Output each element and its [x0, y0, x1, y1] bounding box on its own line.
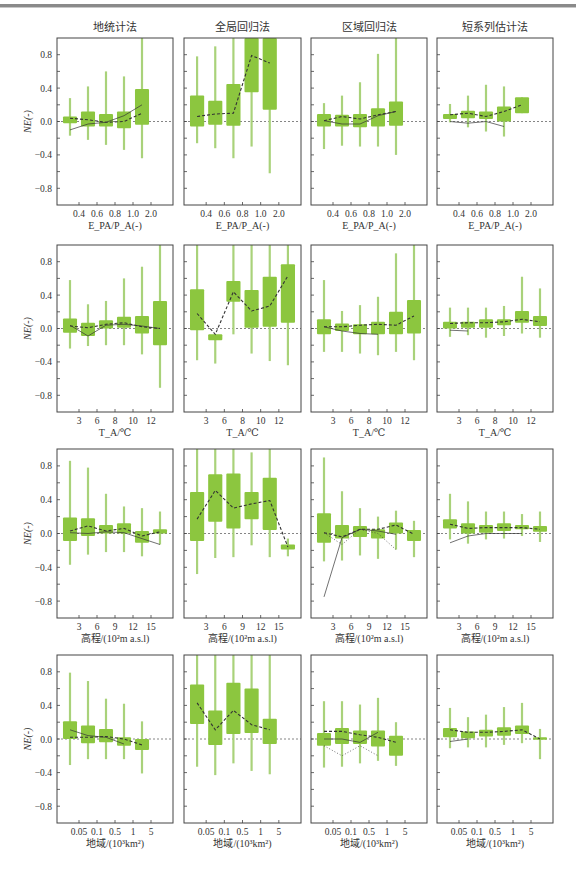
column-title: 地统计法 — [93, 20, 137, 33]
x-tick-label: 8 — [240, 416, 245, 426]
x-tick-label: 12 — [146, 416, 156, 426]
x-tick-label: 12 — [400, 416, 410, 426]
x-tick-label: 2.0 — [273, 209, 285, 219]
x-tick-label: 12 — [256, 622, 266, 632]
x-axis-label: 高程/(10²m a.s.l) — [81, 632, 150, 645]
x-tick-label: 15 — [400, 622, 410, 632]
box — [515, 311, 529, 323]
box — [371, 322, 385, 335]
x-tick-label: 9 — [240, 622, 245, 632]
x-tick-label: 1.0 — [507, 209, 519, 219]
box — [479, 730, 493, 737]
x-tick-label: 3 — [457, 622, 462, 632]
x-tick-label: 0.5 — [109, 827, 121, 837]
box — [461, 731, 475, 738]
panel-row4-col2: 0.050.10.515地域/(10³km²) — [184, 655, 301, 850]
x-axis-label: 地域/(10³km²) — [340, 837, 398, 850]
box — [135, 316, 149, 334]
panel-row3-col3: 3691215高程/(10²m a.s.l) — [311, 449, 427, 645]
box — [281, 264, 295, 322]
box — [281, 544, 295, 549]
x-tick-label: 0.1 — [218, 827, 230, 837]
x-axis-label: E_PA/P_A(-) — [468, 220, 522, 232]
x-tick-label: 0.4 — [327, 209, 339, 219]
x-tick-label: 0.6 — [345, 209, 357, 219]
box — [335, 525, 349, 539]
panel-row4-col1: 0.80.40.0−0.4−0.8NE(-)0.050.10.515地域/(10… — [22, 655, 173, 850]
box — [263, 719, 277, 744]
panel-row3-col2: 3691215高程/(10²m a.s.l) — [184, 449, 301, 645]
x-tick-label: 10 — [508, 416, 518, 426]
panel-row2-col3: 3681012T_A/℃ — [311, 245, 427, 438]
box — [263, 277, 277, 327]
x-axis-label: 地域/(10³km²) — [213, 837, 271, 850]
trend-line — [324, 732, 378, 742]
box — [371, 108, 385, 126]
x-tick-label: 6 — [95, 416, 100, 426]
x-tick-label: 6 — [95, 622, 100, 632]
x-tick-label: 1 — [131, 827, 136, 837]
x-tick-label: 15 — [274, 622, 284, 632]
x-axis-label: E_PA/P_A(-) — [342, 220, 396, 232]
box — [81, 323, 95, 336]
x-tick-label: 6 — [475, 416, 480, 426]
box — [389, 101, 403, 125]
x-axis-label: T_A/℃ — [99, 427, 131, 438]
y-tick-label: −0.4 — [35, 357, 52, 367]
y-tick-label: −0.8 — [35, 391, 52, 401]
box — [63, 721, 77, 739]
x-tick-label: 0.05 — [325, 827, 342, 837]
x-tick-label: 12 — [382, 622, 392, 632]
x-tick-label: 0.8 — [237, 209, 249, 219]
panel-row1-col1: 地统计法0.80.40.0−0.4−0.8NE(-)0.40.60.81.02.… — [22, 20, 173, 232]
y-tick-label: −0.4 — [35, 768, 52, 778]
x-tick-label: 3 — [77, 416, 82, 426]
x-tick-label: 0.8 — [489, 209, 501, 219]
x-tick-label: 1 — [385, 827, 390, 837]
x-axis-label: 地域/(10³km²) — [466, 837, 524, 850]
x-tick-label: 1.0 — [127, 209, 139, 219]
y-tick-label: 0.8 — [40, 461, 52, 471]
box — [208, 334, 222, 340]
box — [208, 101, 222, 125]
box — [226, 84, 240, 126]
x-tick-label: 3 — [457, 416, 462, 426]
x-tick-label: 0.6 — [218, 209, 230, 219]
x-tick-label: 10 — [382, 416, 392, 426]
y-tick-label: 0.0 — [40, 324, 52, 334]
box — [226, 281, 240, 302]
box — [353, 114, 367, 127]
box — [479, 319, 493, 327]
x-tick-label: 0.05 — [451, 827, 468, 837]
x-axis-label: T_A/℃ — [479, 427, 511, 438]
box — [190, 684, 204, 723]
x-tick-label: 6 — [349, 622, 354, 632]
box — [99, 729, 113, 742]
box — [497, 523, 511, 531]
box — [117, 111, 131, 128]
x-axis-label: 高程/(10²m a.s.l) — [461, 632, 530, 645]
x-tick-label: 8 — [113, 416, 118, 426]
y-tick-label: 0.0 — [40, 529, 52, 539]
x-tick-label: 0.05 — [71, 827, 88, 837]
x-tick-label: 0.4 — [73, 209, 85, 219]
box — [190, 492, 204, 541]
y-axis-label: NE(-) — [22, 521, 34, 545]
box — [117, 737, 131, 745]
figure-caption-cut-off — [28, 862, 568, 872]
box — [226, 683, 240, 734]
x-tick-label: 0.4 — [453, 209, 465, 219]
y-axis-label: NE(-) — [22, 109, 34, 133]
y-tick-label: 0.4 — [40, 701, 52, 711]
box — [208, 474, 222, 521]
box — [497, 727, 511, 735]
x-axis-label: E_PA/P_A(-) — [88, 220, 142, 232]
panel-row1-col2: 全局回归法0.40.60.81.02.0E_PA/P_A(-) — [184, 20, 301, 232]
x-axis-label: 高程/(10²m a.s.l) — [335, 632, 404, 645]
x-tick-label: 12 — [128, 622, 138, 632]
x-tick-label: 1.0 — [255, 209, 267, 219]
x-tick-label: 0.1 — [471, 827, 483, 837]
x-tick-label: 0.8 — [363, 209, 375, 219]
box — [190, 96, 204, 127]
x-tick-label: 8 — [367, 416, 372, 426]
